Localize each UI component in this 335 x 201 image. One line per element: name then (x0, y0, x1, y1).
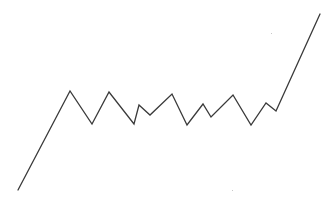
speck-dot (232, 190, 233, 191)
speck-dot (271, 33, 272, 34)
zigzag-path (18, 14, 320, 190)
zigzag-line-diagram (0, 0, 335, 201)
